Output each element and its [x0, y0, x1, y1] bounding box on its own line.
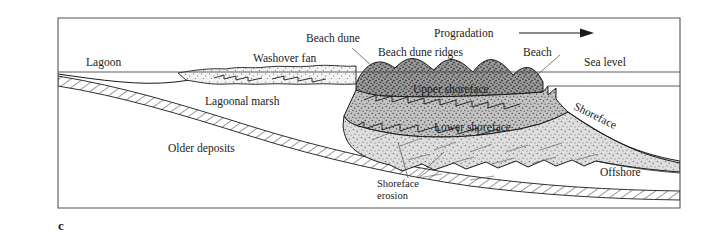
label-progradation: Progradation	[434, 27, 494, 40]
label-beach-dune: Beach dune	[306, 32, 360, 44]
label-sea-level: Sea level	[584, 56, 626, 68]
label-older-deposits: Older deposits	[168, 142, 235, 155]
label-beach-dune-ridges: Beach dune ridges	[378, 46, 463, 59]
label-lagoon: Lagoon	[86, 56, 121, 69]
label-shoreface-erosion-line1: Shoreface	[377, 178, 419, 189]
figure-caption-letter: c	[58, 218, 64, 233]
label-beach: Beach	[523, 46, 552, 58]
label-lagoonal-marsh: Lagoonal marsh	[205, 95, 280, 108]
cross-section-diagram: Lagoon Washover fan Beach dune Beach dun…	[0, 0, 701, 238]
label-washover-fan: Washover fan	[253, 52, 317, 64]
label-upper-shoreface: Upper shoreface	[413, 83, 489, 96]
label-shoreface-erosion-line2: erosion	[377, 190, 409, 201]
figure-container: Lagoon Washover fan Beach dune Beach dun…	[0, 0, 701, 238]
label-offshore: Offshore	[600, 166, 641, 178]
label-lower-shoreface: Lower shoreface	[434, 121, 511, 133]
